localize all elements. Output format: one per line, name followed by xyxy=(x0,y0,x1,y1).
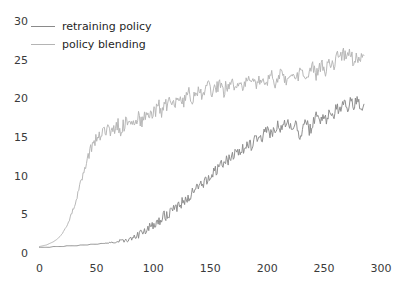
x-tick-label-200: 200 xyxy=(247,263,287,274)
y-tick-label-15: 15 xyxy=(2,132,28,143)
x-tick-label-0: 0 xyxy=(20,263,60,274)
legend: retraining policypolicy blending xyxy=(31,19,152,52)
x-tick-label-300: 300 xyxy=(361,263,395,274)
legend-label: retraining policy xyxy=(62,21,152,32)
y-tick-label-30: 30 xyxy=(2,16,28,27)
x-tick-label-100: 100 xyxy=(133,263,173,274)
figure: 051015202530 050100150200250300 retraini… xyxy=(0,0,395,287)
y-tick-label-20: 20 xyxy=(2,93,28,104)
series-line-retraining-policy xyxy=(40,96,364,247)
legend-swatch-line-icon xyxy=(31,44,55,45)
x-tick-label-150: 150 xyxy=(190,263,230,274)
legend-item-0: retraining policy xyxy=(31,19,152,34)
y-tick-label-25: 25 xyxy=(2,55,28,66)
legend-item-1: policy blending xyxy=(31,37,152,52)
series-line-policy-blending xyxy=(40,48,364,247)
legend-swatch-line-icon xyxy=(31,26,55,27)
y-tick-label-0: 0 xyxy=(2,248,28,259)
y-tick-label-10: 10 xyxy=(2,171,28,182)
series-group xyxy=(40,48,364,247)
x-tick-label-50: 50 xyxy=(76,263,116,274)
y-tick-label-5: 5 xyxy=(2,209,28,220)
legend-label: policy blending xyxy=(62,39,146,50)
x-tick-label-250: 250 xyxy=(304,263,344,274)
